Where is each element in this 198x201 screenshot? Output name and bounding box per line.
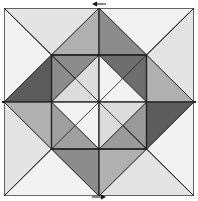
left-edge-marker (1, 100, 4, 104)
quilt-block-svg (4, 8, 194, 196)
right-edge-marker (194, 100, 197, 104)
arrow-left-icon (92, 1, 106, 7)
quilt-block-diagram (4, 8, 194, 196)
arrow-right-icon (92, 194, 106, 200)
